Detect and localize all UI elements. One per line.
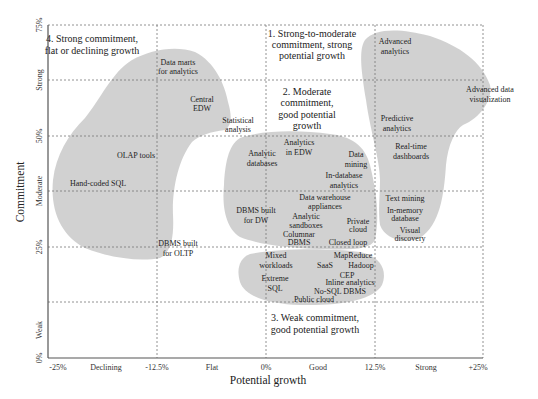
item-in-memory-database-2: database [391, 214, 419, 223]
item-data-mining: Data [348, 150, 364, 159]
item-dbms-dw: DBMS built [236, 206, 276, 215]
y-tick: 0% [35, 352, 44, 363]
item-advanced-analytics: Advanced [379, 37, 411, 46]
item-dbms-dw-2: for DW [244, 216, 269, 225]
item-saas: SaaS [317, 261, 333, 270]
item-olap-tools: OLAP tools [117, 151, 155, 160]
y-tick: 25% [35, 239, 44, 254]
item-dw-appliances: Data warehouse [299, 193, 351, 202]
item-statistical-analysis: Statistical [222, 116, 254, 125]
item-predictive-analytics-2: analytics [383, 124, 411, 133]
item-statistical-analysis-2: analysis [225, 125, 251, 134]
x-tick: -25% [49, 363, 67, 372]
item-mixed-workloads-2: workloads [259, 261, 292, 270]
quadrant-label-line: commitment, strong [272, 39, 353, 50]
y-tick: Strong [35, 69, 44, 90]
item-private-cloud-2: cloud [349, 225, 367, 234]
item-closed-loop: Closed loop [329, 238, 367, 247]
item-extreme-sql: Extreme [261, 274, 289, 283]
item-analytic-sandboxes: Analytic [292, 212, 320, 221]
item-text-mining: Text mining [386, 194, 425, 203]
item-advanced-data-visualization: Advanced data [466, 85, 514, 94]
quadrant-label-line: flat or declining growth [45, 45, 140, 56]
y-tick: Moderate [35, 175, 44, 206]
quadrant-label-line: 3. Weak commitment, [271, 312, 359, 323]
x-axis-ticks: -25% Declining -12.5% Flat 0% Good 12.5%… [49, 363, 488, 372]
x-tick: 12.5% [365, 363, 386, 372]
item-data-marts-2: for analytics [158, 67, 198, 76]
item-extreme-sql-2: SQL [267, 284, 282, 293]
group-1-blob [361, 30, 490, 240]
y-axis-label: Commitment [14, 161, 26, 223]
y-tick: 50% [35, 128, 44, 143]
quadrant-label-line: 2. Moderate [283, 86, 332, 97]
item-mixed-workloads: Mixed [266, 251, 287, 260]
quadrant-4-label: 4. Strong commitment, flat or declining … [45, 33, 140, 56]
item-analytics-in-edw: Analytics [284, 138, 315, 147]
item-visual-discovery-2: discovery [394, 234, 425, 243]
x-tick: -12.5% [145, 363, 169, 372]
item-inline-analytics: Inline analytics [325, 278, 374, 287]
item-hadoop: Hadoop [348, 261, 373, 270]
item-data-mining-2: mining [345, 160, 368, 169]
y-tick: Weak [35, 321, 44, 339]
item-public-cloud: Public cloud [294, 295, 334, 304]
quadrant-label-line: good potential [278, 109, 336, 120]
item-dw-appliances-2: appliances [308, 202, 342, 211]
item-columnar-dbms-2: DBMS [288, 238, 311, 247]
item-real-time-dashboards-2: dashboards [393, 152, 429, 161]
item-analytic-databases-2: databases [247, 159, 278, 168]
item-data-marts: Data marts [161, 58, 196, 67]
item-hand-coded-sql: Hand-coded SQL [70, 179, 126, 188]
bubble-chart: 0% Weak 25% Moderate 50% Strong 75% -25%… [0, 0, 538, 399]
item-central-edw-2: EDW [193, 104, 212, 113]
item-in-database-analytics-2: analytics [330, 181, 358, 190]
quadrant-2-label: 2. Moderate commitment, good potential g… [278, 86, 336, 131]
item-analytics-in-edw-2: in EDW [286, 148, 313, 157]
quadrant-1-label: 1. Strong-to-moderate commitment, strong… [268, 28, 357, 61]
item-advanced-analytics-2: analytics [381, 47, 409, 56]
item-in-database-analytics: In-database [326, 171, 363, 180]
quadrant-3-label: 3. Weak commitment, good potential growt… [271, 312, 359, 335]
item-analytic-databases: Analytic [248, 149, 276, 158]
x-tick: Declining [90, 363, 122, 372]
quadrant-label-line: growth [293, 120, 321, 131]
x-tick: +25% [468, 363, 488, 372]
x-tick: Good [309, 363, 327, 372]
x-axis-label: Potential growth [230, 374, 307, 387]
quadrant-label-line: commitment, [280, 97, 333, 108]
quadrant-label-line: good potential growth [271, 324, 359, 335]
item-dbms-oltp: DBMS built [158, 239, 198, 248]
item-analytic-sandboxes-2: sandboxes [289, 221, 322, 230]
y-tick: 75% [35, 17, 44, 32]
item-predictive-analytics: Predictive [381, 114, 414, 123]
x-tick: Flat [206, 363, 219, 372]
x-tick: 0% [261, 363, 272, 372]
quadrant-label-line: 1. Strong-to-moderate [268, 28, 357, 39]
item-advanced-data-visualization-2: visualization [470, 95, 511, 104]
y-axis-ticks: 0% Weak 25% Moderate 50% Strong 75% [35, 17, 44, 363]
item-mapreduce: MapReduce [334, 251, 373, 260]
quadrant-label-line: 4. Strong commitment, [46, 33, 138, 44]
item-real-time-dashboards: Real-time [395, 142, 427, 151]
item-central-edw: Central [190, 95, 214, 104]
x-tick: Strong [415, 363, 436, 372]
item-dbms-oltp-2: for OLTP [163, 249, 194, 258]
quadrant-label-line: potential growth [279, 50, 345, 61]
